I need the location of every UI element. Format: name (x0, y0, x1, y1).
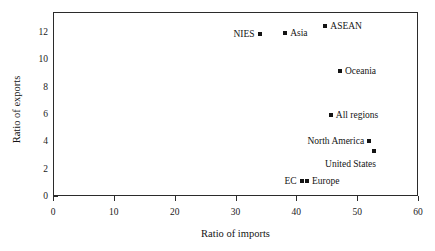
data-point-label: Europe (312, 175, 339, 186)
x-tick-mark (418, 196, 419, 201)
x-tick-label: 50 (352, 207, 362, 217)
plot-area: NIESAsiaASEANOceaniaAll regionsNorth Ame… (53, 12, 418, 196)
y-axis-tick-labels: 024681012 (0, 0, 48, 251)
data-point (283, 31, 287, 35)
x-tick-label: 60 (413, 207, 423, 217)
data-point-label: Asia (290, 28, 307, 39)
data-point-label: ASEAN (330, 21, 362, 32)
x-tick-label: 40 (292, 207, 302, 217)
data-point (258, 32, 262, 36)
x-axis-title: Ratio of imports (53, 228, 418, 239)
y-tick-label: 0 (43, 191, 48, 201)
x-tick-label: 0 (51, 207, 56, 217)
data-point-label: EC (284, 175, 296, 186)
data-point-label: North America (307, 135, 364, 146)
x-tick-label: 10 (109, 207, 119, 217)
x-tick-mark (114, 196, 115, 201)
x-tick-mark (236, 196, 237, 201)
data-point-label: NIES (233, 29, 254, 40)
x-tick-mark (175, 196, 176, 201)
y-tick-label: 8 (43, 82, 48, 92)
data-point (300, 179, 304, 183)
x-tick-mark (357, 196, 358, 201)
data-point (372, 149, 376, 153)
x-tick-label: 20 (170, 207, 180, 217)
data-point (367, 139, 371, 143)
data-point (329, 113, 333, 117)
y-tick-label: 12 (39, 27, 49, 37)
data-point (305, 179, 309, 183)
x-tick-mark (53, 196, 54, 201)
y-tick-label: 4 (43, 136, 48, 146)
scatter-chart: 024681012 0102030405060 NIESAsiaASEANOce… (0, 0, 435, 251)
data-point-label: All regions (336, 110, 378, 121)
y-tick-label: 10 (39, 54, 49, 64)
data-point-label: Oceania (345, 66, 376, 77)
y-axis-title: Ratio of exports (11, 50, 22, 170)
data-point-label: United States (325, 158, 376, 169)
x-tick-mark (296, 196, 297, 201)
data-point (323, 24, 327, 28)
y-tick-label: 2 (43, 164, 48, 174)
y-tick-label: 6 (43, 109, 48, 119)
x-tick-label: 30 (231, 207, 241, 217)
data-point (338, 69, 342, 73)
